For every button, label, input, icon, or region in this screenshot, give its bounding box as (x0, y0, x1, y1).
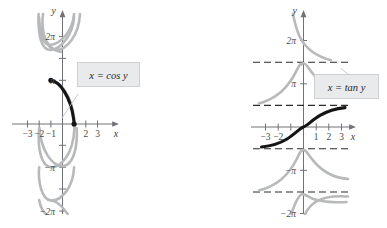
y-tick-label-neg-2pi: −2π (39, 207, 55, 217)
x-tick-label-3: 3 (95, 129, 100, 139)
x-tick-label--1: −1 (46, 129, 56, 139)
tan-annotation-label: x = tan y (327, 82, 366, 93)
chart-cos-inverse: x = cos y 2π π −π −2π −3 −2 −1 2 3 y x (0, 0, 193, 228)
x-tick-label--2: −2 (34, 129, 44, 139)
y-axis-arrowhead (60, 10, 66, 17)
x-tick-label--2: −2 (273, 132, 283, 142)
y-axis-label: y (51, 5, 57, 16)
chart-tan-inverse: x = tan y 2π π −π −2π −3 −2 1 2 3 y x (193, 0, 387, 228)
y-tick-label-pi: π (50, 76, 55, 86)
x-tick-label-1: 1 (314, 132, 319, 142)
tan-plot-svg: x = tan y 2π π −π −2π −3 −2 1 2 3 y x (193, 0, 387, 228)
cos-annotation-label: x = cos y (88, 70, 128, 81)
x-axis-arrowhead (349, 124, 356, 130)
y-tick-label-2pi: 2π (286, 36, 296, 46)
y-axis-arrowhead (301, 10, 307, 17)
cos-plot-svg: x = cos y 2π π −π −2π −3 −2 −1 2 3 y x (0, 0, 193, 228)
x-tick-label--3: −3 (260, 132, 270, 142)
y-axis-label: y (292, 5, 298, 16)
x-axis-arrowhead (112, 121, 119, 127)
x-tick-label-2: 2 (83, 129, 88, 139)
y-tick-label-pi: π (291, 79, 296, 89)
x-axis-label: x (113, 128, 119, 139)
figure-canvas: x = cos y 2π π −π −2π −3 −2 −1 2 3 y x (0, 0, 387, 228)
y-tick-label-neg-2pi: −2π (280, 209, 296, 219)
endpoint-dot-1-0 (72, 121, 77, 126)
y-tick-label-neg-pi: −π (44, 163, 55, 173)
tan-branch-top (293, 14, 331, 60)
tan-branch-lower-cont (302, 150, 348, 179)
x-axis-label: x (350, 131, 356, 142)
x-tick-label--3: −3 (22, 129, 32, 139)
x-tick-label-2: 2 (326, 132, 331, 142)
y-tick-label-2pi: 2π (45, 32, 55, 42)
y-tick-label-neg-pi: −π (285, 166, 296, 176)
x-tick-label-3: 3 (339, 132, 344, 142)
callout-leader-line (341, 69, 349, 76)
